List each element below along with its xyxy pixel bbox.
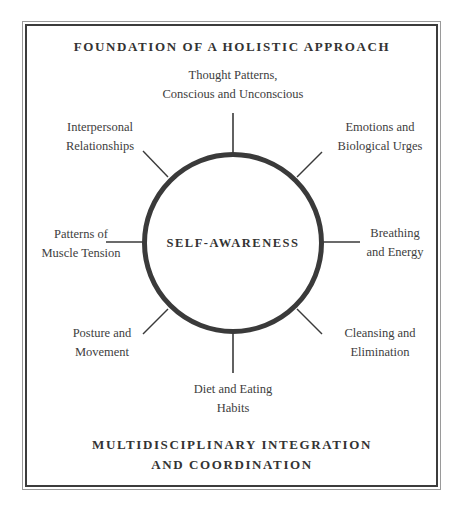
node-line2: Biological Urges xyxy=(325,137,435,156)
node-line1: Interpersonal xyxy=(57,118,143,137)
footer-line1: MULTIDISCIPLINARY INTEGRATION xyxy=(0,435,464,455)
node-line1: Thought Patterns, xyxy=(133,66,333,85)
node-line1: Emotions and xyxy=(325,118,435,137)
spoke-bottom-right xyxy=(297,309,322,334)
node-diet: Diet and Eating Habits xyxy=(153,380,313,418)
diagram-footer: MULTIDISCIPLINARY INTEGRATION AND COORDI… xyxy=(0,435,464,475)
footer-line2: AND COORDINATION xyxy=(0,455,464,475)
node-breathing: Breathing and Energy xyxy=(360,224,430,262)
spoke-bottom-left xyxy=(143,309,168,334)
node-line1: Breathing xyxy=(360,224,430,243)
spoke-top-left xyxy=(143,151,168,177)
node-line1: Posture and xyxy=(62,324,142,343)
center-label: SELF-AWARENESS xyxy=(133,233,333,253)
node-line1: Diet and Eating xyxy=(153,380,313,399)
node-cleansing: Cleansing and Elimination xyxy=(325,324,435,362)
node-line2: Muscle Tension xyxy=(38,244,124,263)
node-line2: and Energy xyxy=(360,243,430,262)
node-line2: Movement xyxy=(62,343,142,362)
node-line2: Conscious and Unconscious xyxy=(133,85,333,104)
node-line1: Cleansing and xyxy=(325,324,435,343)
node-interpersonal: Interpersonal Relationships xyxy=(57,118,143,156)
node-line2: Habits xyxy=(153,399,313,418)
spoke-top-right xyxy=(297,152,322,177)
node-line1: Patterns of xyxy=(38,225,124,244)
node-thought-patterns: Thought Patterns, Conscious and Unconsci… xyxy=(133,66,333,104)
node-muscle-tension: Patterns of Muscle Tension xyxy=(38,225,124,263)
node-line2: Elimination xyxy=(325,343,435,362)
node-emotions: Emotions and Biological Urges xyxy=(325,118,435,156)
node-line2: Relationships xyxy=(57,137,143,156)
node-posture: Posture and Movement xyxy=(62,324,142,362)
